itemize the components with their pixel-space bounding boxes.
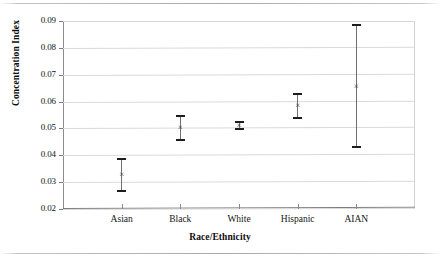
y-tick-label: 0.06	[41, 97, 56, 106]
data-point-marker-asian	[117, 170, 126, 179]
errorbar-cap-lower	[176, 139, 185, 141]
errorbar-cap-upper	[117, 158, 126, 160]
y-tick-label: 0.04	[41, 150, 56, 159]
errorbar-cap-upper	[176, 115, 185, 117]
page-rule-bottom	[0, 253, 440, 254]
x-tick-label-asian: Asian	[111, 214, 133, 225]
errorbar-cap-upper	[293, 93, 302, 95]
x-tick-label-hispanic: Hispanic	[281, 214, 315, 225]
x-tick-label-aian: AIAN	[344, 214, 368, 225]
errorbar-cap-lower	[117, 190, 126, 192]
y-tick-label: 0.08	[41, 43, 56, 52]
errorbar-hispanic	[292, 21, 304, 209]
data-point-marker-aian	[352, 82, 361, 91]
data-point-marker-white	[235, 121, 244, 130]
data-point-marker-hispanic	[293, 101, 302, 110]
errorbar-white	[233, 21, 245, 209]
x-tick-label-black: Black	[169, 214, 191, 225]
y-tick-label: 0.09	[41, 16, 56, 25]
page-rule-top	[0, 3, 440, 4]
chart-figure: 0.090.080.070.060.050.040.030.02 AsianBl…	[0, 0, 440, 260]
data-point-marker-black	[176, 123, 185, 132]
y-tick-mark	[59, 209, 63, 210]
y-tick-label: 0.03	[41, 177, 56, 186]
y-tick-label: 0.07	[41, 70, 56, 79]
errorbar-series	[63, 21, 415, 209]
errorbar-cap-upper	[352, 24, 361, 26]
errorbar-aian	[350, 21, 362, 209]
y-axis-title: Concentration Index	[11, 0, 21, 126]
x-tick-label-white: White	[227, 214, 250, 225]
y-tick-label: 0.02	[41, 204, 56, 213]
errorbar-black	[174, 21, 186, 209]
x-axis-title: Race/Ethnicity	[0, 232, 440, 242]
errorbar-cap-lower	[293, 117, 302, 119]
errorbar-cap-lower	[352, 146, 361, 148]
y-tick-label: 0.05	[41, 123, 56, 132]
errorbar-asian	[116, 21, 128, 209]
